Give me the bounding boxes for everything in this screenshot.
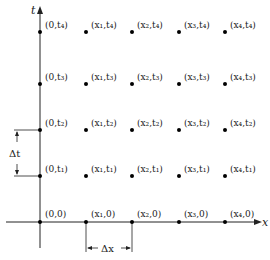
point-label: (x₂,0) (137, 209, 161, 219)
point-label: (x₁,t₂) (91, 118, 117, 128)
t-axis-label: t (31, 4, 36, 17)
point-label: (x₂,t₁) (137, 164, 163, 174)
dx-right-arrow-icon (126, 246, 131, 250)
point-label: (x₁,t₁) (91, 164, 117, 174)
point-label: (x₁,0) (91, 209, 115, 219)
grid-point (130, 30, 134, 34)
grid-point (38, 174, 42, 178)
grid-row-t1: (0,t₁) (x₁,t₁) (x₂,t₁) (x₃,t₁) (x₄,t₁) (38, 164, 256, 178)
dt-up-arrow-icon (15, 131, 19, 136)
x-axis-label: x (262, 216, 269, 229)
grid-point (223, 174, 227, 178)
point-label: (x₃,t₄) (184, 20, 210, 30)
dt-label: Δt (9, 148, 20, 159)
grid-point (84, 30, 88, 34)
point-label: (x₄,t₁) (230, 164, 256, 174)
grid-point (130, 220, 134, 224)
grid-point (38, 220, 42, 224)
grid-row-t3: (0,t₃) (x₁,t₃) (x₂,t₃) (x₃,t₃) (x₄,t₃) (38, 72, 256, 86)
point-label: (0,t₂) (45, 118, 68, 128)
point-label: (x₄,t₂) (230, 118, 256, 128)
point-label: (0,t₃) (45, 72, 68, 82)
grid-point (177, 174, 181, 178)
grid-point (84, 82, 88, 86)
t-axis-arrow-icon (37, 6, 43, 14)
point-label: (x₃,0) (184, 209, 208, 219)
point-label: (0,t₄) (45, 20, 68, 30)
grid-point (177, 30, 181, 34)
grid-point (223, 30, 227, 34)
dx-label: Δx (101, 243, 114, 254)
point-label: (x₂,t₂) (137, 118, 163, 128)
point-label: (x₂,t₃) (137, 72, 163, 82)
grid-point (84, 220, 88, 224)
point-label: (x₂,t₄) (137, 20, 163, 30)
point-label: (x₃,t₂) (184, 118, 210, 128)
point-label: (x₄,0) (230, 209, 254, 219)
grid-point (130, 174, 134, 178)
point-label: (0,t₁) (45, 164, 68, 174)
grid-point (177, 82, 181, 86)
grid-row-t2: (0,t₂) (x₁,t₂) (x₂,t₂) (x₃,t₂) (x₄,t₂) (38, 118, 256, 132)
grid-diagram: t x Δt Δx (0,0) (x₁,0) (x₂,0) (x₃,0) (x₄… (0, 0, 270, 260)
grid-point (177, 220, 181, 224)
grid-point (223, 82, 227, 86)
grid-point (84, 174, 88, 178)
point-label: (x₁,t₄) (91, 20, 117, 30)
grid-point (38, 128, 42, 132)
grid-row-t4: (0,t₄) (x₁,t₄) (x₂,t₄) (x₃,t₄) (x₄,t₄) (38, 20, 256, 34)
x-axis-arrow-icon (254, 219, 262, 225)
dt-down-arrow-icon (15, 170, 19, 175)
point-label: (x₃,t₁) (184, 164, 210, 174)
point-label: (0,0) (45, 209, 66, 219)
grid-point (38, 30, 42, 34)
point-label: (x₄,t₄) (230, 20, 256, 30)
point-label: (x₄,t₃) (230, 72, 256, 82)
point-label: (x₃,t₃) (184, 72, 210, 82)
grid-point (130, 128, 134, 132)
grid-point (177, 128, 181, 132)
point-label: (x₁,t₃) (91, 72, 117, 82)
dx-left-arrow-icon (87, 246, 92, 250)
grid-point (223, 220, 227, 224)
grid-point (130, 82, 134, 86)
grid-point (84, 128, 88, 132)
grid-point (223, 128, 227, 132)
grid-point (38, 82, 42, 86)
